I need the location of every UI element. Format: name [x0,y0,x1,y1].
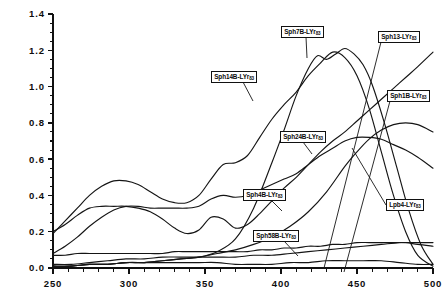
y-axis-tick-label: 1.2 [29,45,45,56]
series-label-text: Sph13-LYr [381,33,411,40]
y-axis-tick-label: 0.4 [29,190,45,201]
series-callout-label: Sph13-LYr83 [378,31,420,43]
series-label-subscript: 83 [249,76,254,81]
series-label-text: Sph1B-LYr [390,92,422,99]
y-axis-tick-label: 0.8 [29,117,45,128]
series-label-subscript: 83 [278,194,283,199]
series-callout-label: Sph14B-LYr83 [211,71,257,83]
series-label-text: Lpb4-LYr [389,201,416,208]
series-label-subscript: 83 [291,235,296,240]
series-label-subscript: 83 [318,136,323,141]
absorbance-spectra-chart: 0.00.20.40.60.81.01.21.42503003504004505… [0,0,446,307]
series-label-text: Sph4B-LYr [246,191,278,198]
callout-leader-line [303,142,312,154]
x-axis-tick-label: 350 [196,278,215,289]
series-curve [53,52,433,266]
y-axis-tick-label: 1.0 [29,81,45,92]
series-label-text: Sph24B-LYr [283,133,318,140]
callout-leader-line [324,42,381,268]
series-callout-label: Sph4B-LYr83 [243,189,286,201]
y-axis-tick-label: 0.6 [29,154,45,165]
series-callout-label: Sph7B-LYr83 [281,26,324,38]
series-label-text: Sph14B-LYr [214,73,249,80]
series-label-subscript: 83 [416,204,421,209]
y-axis-tick-label: 1.4 [29,8,45,19]
x-axis-tick-label: 450 [348,278,367,289]
callout-leader-line [306,37,307,58]
x-axis-tick-label: 300 [120,278,139,289]
series-label-text: Sph58B-LYr [256,232,291,239]
x-axis-tick-label: 250 [44,278,63,289]
series-label-subscript: 83 [422,95,427,100]
callout-leader-line [271,200,282,211]
series-curve [53,261,433,267]
series-callout-label: Lpb4-LYr83 [386,199,424,211]
series-label-subscript: 83 [412,36,417,41]
series-label-text: Sph7B-LYr [284,28,316,35]
y-axis-tick-label: 0.2 [29,226,45,237]
y-axis-tick-label: 0.0 [29,262,45,273]
series-callout-label: Sph1B-LYr83 [387,90,430,102]
series-label-subscript: 83 [316,31,321,36]
x-axis-tick-label: 500 [424,278,443,289]
callout-leader-line [243,82,253,101]
callout-leader-line [352,148,386,205]
axis-spines [53,14,433,268]
chart-axes [48,14,433,274]
series-callout-label: Sph24B-LYr83 [280,131,326,143]
series-callout-label: Sph58B-LYr83 [253,230,299,242]
x-axis-tick-label: 400 [272,278,291,289]
chart-plot-area: 0.00.20.40.60.81.01.21.42503003504004505… [0,0,446,307]
